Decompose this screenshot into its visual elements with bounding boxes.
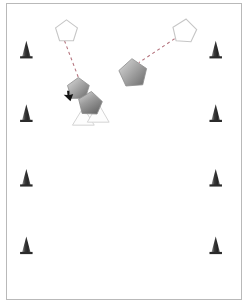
agent-pentagon[interactable]: [118, 58, 148, 87]
cone-icon[interactable]: [209, 169, 221, 187]
goal-path-line: [65, 41, 79, 78]
simulation-canvas[interactable]: [6, 3, 242, 300]
scene-svg: [7, 4, 241, 299]
simulation-app: [0, 0, 247, 306]
goal-path-line: [139, 39, 175, 63]
agent-layer: [67, 58, 147, 116]
cone-icon[interactable]: [20, 236, 32, 254]
cone-icon[interactable]: [209, 104, 221, 122]
cone-icon[interactable]: [209, 41, 221, 59]
goal-pentagon-outline[interactable]: [56, 20, 78, 41]
cone-icon[interactable]: [20, 169, 32, 187]
goal-layer: [56, 17, 198, 43]
cone-icon[interactable]: [209, 236, 221, 254]
cone-icon[interactable]: [20, 41, 32, 59]
cone-icon[interactable]: [20, 104, 32, 122]
goal-pentagon-outline[interactable]: [171, 17, 198, 43]
